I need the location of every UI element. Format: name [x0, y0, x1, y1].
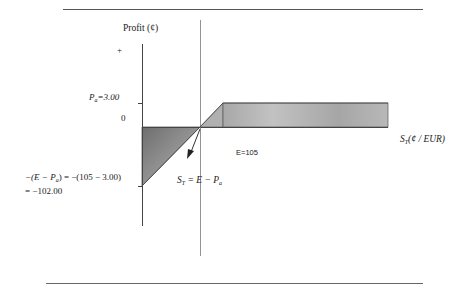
y-axis-label: Profit (¢)	[123, 24, 158, 34]
premium-label: Pa=3.00	[89, 93, 119, 103]
profit-flat-region	[223, 103, 388, 127]
x-axis-label: ST(¢ / EUR)	[400, 135, 445, 145]
plus-sign: +	[117, 46, 122, 55]
max-loss-formula-part2: ) = −(105 − 3.00)	[59, 172, 121, 182]
x-axis-units: (¢ / EUR)	[408, 134, 445, 144]
premium-value: =3.00	[98, 92, 120, 102]
breakeven-arrowhead-icon	[187, 149, 194, 159]
breakeven-premium-subscript: a	[219, 180, 222, 186]
max-loss-value: = −102.00	[25, 187, 62, 196]
breakeven-formula: = E − P	[185, 175, 219, 185]
zero-label: 0	[121, 114, 126, 123]
max-loss-formula-part1: −(E − P	[25, 172, 56, 182]
max-loss-formula: −(E − Pa) = −(105 − 3.00)	[25, 173, 121, 183]
breakeven-label: ST = E − Pa	[177, 176, 222, 186]
strike-label: E=105	[236, 149, 258, 157]
